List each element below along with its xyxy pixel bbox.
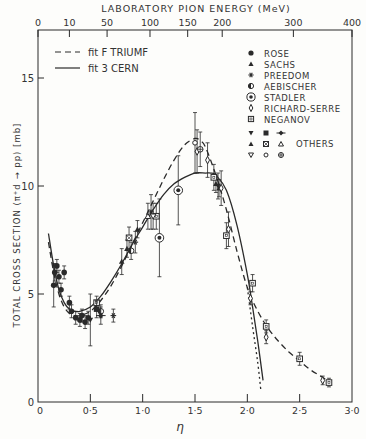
open-circle-marker <box>193 141 198 146</box>
circled-dot-center <box>176 188 180 192</box>
legend-others-label: OTHERS <box>296 139 334 149</box>
data-point-preedom <box>111 309 117 322</box>
fit-curve-solid <box>48 173 263 381</box>
open-square-marker <box>250 280 256 286</box>
data-point-neganov <box>297 352 303 365</box>
open-square-marker <box>297 356 303 362</box>
data-point-richard-serre <box>206 143 210 178</box>
legend-data-label: NEGANOV <box>264 115 310 125</box>
top-tick-label: 150 <box>179 17 197 28</box>
legend-data-label: STADLER <box>264 93 306 103</box>
legend-fits: fit F TRIUMFfit 3 CERN <box>55 47 148 74</box>
filled-circle-marker <box>58 287 64 293</box>
open-diamond-marker <box>206 156 210 164</box>
data-point-richard-serre <box>321 376 325 385</box>
legend-fit-label: fit 3 CERN <box>88 63 139 74</box>
top-tick-label: 300 <box>284 17 302 28</box>
y-tick-label: 5 <box>28 289 34 300</box>
top-tick-label: 10 <box>63 17 75 28</box>
data-point-others <box>119 249 125 275</box>
top-tick-label: 200 <box>213 17 231 28</box>
legend-data-label: RICHARD-SERRE <box>264 104 341 114</box>
x-tick-label: 1·0 <box>135 405 150 416</box>
x-tick-label: 0·5 <box>83 405 98 416</box>
legend-data: ROSESACHSPREEDOMAEBISCHERSTADLERRICHARD-… <box>247 49 341 158</box>
data-point-neganov <box>326 378 332 387</box>
filled-square-marker <box>94 306 100 312</box>
y-tick-label: 15 <box>21 73 34 84</box>
top-tick-label: 400 <box>343 17 361 28</box>
top-tick-label: 50 <box>101 17 113 28</box>
y-axis-ticks: 051015 <box>21 73 44 408</box>
filled-triangle-marker <box>248 61 253 66</box>
data-point-richard-serre <box>219 171 223 206</box>
x-tick-label: 2·0 <box>240 405 255 416</box>
filled-circle-marker <box>56 274 62 280</box>
y-tick-label: 10 <box>21 181 34 192</box>
filled-circle-marker <box>61 270 67 276</box>
data-point-rose <box>61 266 67 279</box>
legend-fit-label: fit F TRIUMF <box>88 47 148 58</box>
down-triangle-marker <box>249 131 254 136</box>
filled-circle-marker <box>248 50 253 55</box>
data-point-neganov <box>250 275 256 292</box>
open-diamond-marker <box>227 225 231 233</box>
open-diamond-marker <box>249 104 253 111</box>
data-points <box>51 113 332 387</box>
open-square-marker <box>248 116 253 121</box>
x-tick-label: 1·5 <box>187 405 202 416</box>
filled-circle-marker <box>69 308 75 314</box>
data-point-others <box>197 132 203 167</box>
y-axis-label: TOTAL CROSS SECTION (π⁺d → pp) [mb] <box>12 123 22 329</box>
top-axis-ticks: 01050100150200300400 <box>35 17 361 37</box>
y-tick-label: 0 <box>28 397 34 408</box>
open-square-marker <box>224 233 230 239</box>
data-point-others <box>193 113 198 173</box>
open-circle-marker <box>264 153 268 157</box>
data-point-others <box>145 203 151 229</box>
x-tick-label: 2·5 <box>292 405 307 416</box>
open-down-triangle-marker <box>249 153 254 158</box>
open-square-marker <box>263 324 269 330</box>
top-tick-label: 100 <box>141 17 159 28</box>
cross-section-chart: LABORATORY PION ENERGY (MeV) 01050100150… <box>0 0 366 439</box>
x-axis-label: η <box>176 420 184 434</box>
legend-data-label: PREEDOM <box>264 71 310 81</box>
x-tick-label: 0 <box>37 405 43 416</box>
data-point-richard-serre <box>226 212 230 247</box>
filled-triangle-marker <box>249 142 254 147</box>
circled-dot-center <box>249 95 253 99</box>
data-point-rose <box>73 311 79 324</box>
filled-circle-marker <box>51 283 57 289</box>
filled-square-marker <box>264 131 269 136</box>
circled-dot-center <box>157 236 161 240</box>
top-tick-label: 0 <box>35 17 41 28</box>
open-triangle-marker <box>279 142 284 147</box>
open-square-marker <box>211 175 217 181</box>
x-axis-ticks: 00·51·01·52·02·53·0 <box>37 394 360 416</box>
legend-data-label: SACHS <box>264 60 295 70</box>
open-diamond-marker <box>264 333 268 341</box>
filled-circle-marker <box>54 263 60 269</box>
top-axis-title: LABORATORY PION ENERGY (MeV) <box>101 3 290 14</box>
data-point-stadler <box>174 156 183 225</box>
fit-curves <box>48 138 331 391</box>
open-square-marker <box>326 380 332 386</box>
legend-data-label: AEBISCHER <box>264 82 317 92</box>
x-tick-label: 3·0 <box>344 405 359 416</box>
legend-data-label: ROSE <box>264 49 289 59</box>
